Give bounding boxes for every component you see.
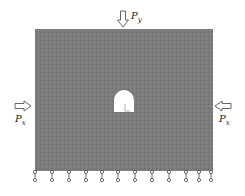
load-arrow-top — [118, 11, 129, 27]
roller-supports — [33, 170, 212, 181]
diagram-canvas — [0, 0, 245, 196]
load-label-right: Px — [219, 114, 230, 127]
load-arrow-left — [15, 101, 31, 111]
load-arrow-right — [215, 101, 231, 111]
tunnel-opening — [114, 90, 134, 112]
load-label-left: Px — [15, 114, 26, 127]
load-label-top: Py — [131, 11, 142, 24]
